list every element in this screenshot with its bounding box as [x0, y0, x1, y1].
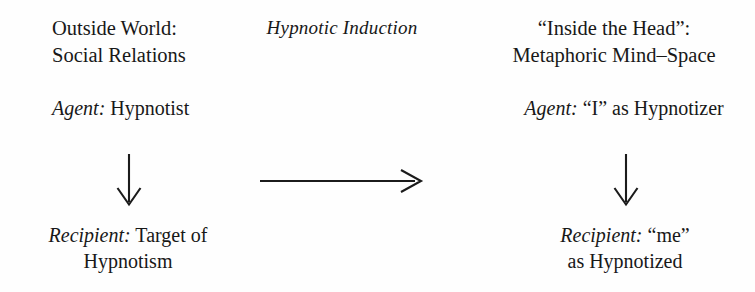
left-agent-role-label: Agent:: [52, 97, 105, 119]
right-column-heading: “Inside the Head”: Metaphoric Mind–Space: [478, 15, 750, 68]
right-recipient-line-2: as Hypnotized: [515, 248, 735, 274]
left-column-heading: Outside World: Social Relations: [52, 15, 186, 68]
right-recipient-role-label: Recipient:: [560, 224, 642, 246]
right-agent-role-label: Agent:: [524, 97, 577, 119]
left-recipient-value: Target of: [131, 224, 208, 246]
arrow-down-icon: [108, 152, 150, 212]
arrow-right-icon: [255, 165, 433, 197]
right-heading-line-1: “Inside the Head”:: [478, 15, 750, 42]
arrow-down-icon: [605, 152, 647, 212]
left-recipient-line-2: Hypnotism: [18, 248, 238, 274]
left-recipient-line-1: Recipient: Target of: [18, 222, 238, 248]
left-agent-value: Hypnotist: [105, 97, 189, 119]
right-recipient-line-1: Recipient: “me”: [515, 222, 735, 248]
right-agent-value: “I” as Hypnotizer: [578, 97, 724, 119]
left-agent-row: Agent: Hypnotist: [52, 95, 189, 121]
hypnosis-mapping-diagram: Outside World: Social Relations Hypnotic…: [0, 0, 755, 292]
left-recipient-row: Recipient: Target of Hypnotism: [18, 222, 238, 274]
right-agent-row: Agent: “I” as Hypnotizer: [495, 95, 753, 121]
mapping-label: Hypnotic Induction: [262, 16, 422, 41]
left-heading-line-2: Social Relations: [52, 42, 186, 69]
left-heading-line-1: Outside World:: [52, 15, 186, 42]
left-recipient-role-label: Recipient:: [49, 224, 131, 246]
right-recipient-row: Recipient: “me” as Hypnotized: [515, 222, 735, 274]
right-recipient-value: “me”: [643, 224, 690, 246]
right-heading-line-2: Metaphoric Mind–Space: [478, 42, 750, 69]
